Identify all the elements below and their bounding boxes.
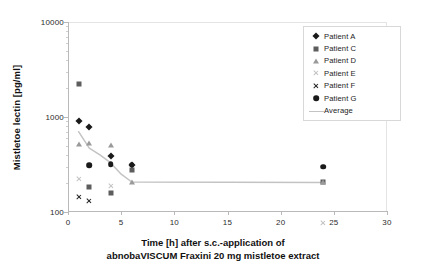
x-tick-label-15: 15 — [223, 218, 232, 227]
y-axis-title-text: Mistletoe lectin [pg/ml] — [12, 64, 23, 169]
legend-item-patient-g[interactable]: Patient G — [308, 92, 396, 104]
y-axis-tick-labels: 100100010000 — [26, 22, 64, 212]
legend-item-patient-e[interactable]: Patient E — [308, 67, 396, 79]
legend-marker-icon — [308, 43, 324, 55]
x-tick-label-0: 0 — [66, 218, 71, 227]
legend-marker-icon — [308, 80, 324, 92]
legend-item-label: Patient F — [324, 81, 355, 90]
legend-item-patient-c[interactable]: Patient C — [308, 42, 396, 54]
x-tick-label-30: 30 — [382, 218, 391, 227]
legend-line-icon — [309, 111, 324, 112]
legend-marker-icon — [308, 55, 324, 67]
y-tick-label-1000: 1000 — [26, 113, 64, 122]
x-tick-label-5: 5 — [119, 218, 124, 227]
legend-marker-icon — [308, 92, 324, 104]
legend-marker-icon — [308, 105, 324, 117]
legend-item-patient-f[interactable]: Patient F — [308, 80, 396, 92]
legend-item-patient-a[interactable]: Patient A — [308, 30, 396, 42]
legend-marker-icon — [308, 67, 324, 79]
x-tick-label-10: 10 — [170, 218, 179, 227]
x-tick-label-25: 25 — [329, 218, 338, 227]
legend-item-label: Patient E — [324, 69, 356, 78]
y-tick-label-100: 100 — [26, 208, 64, 217]
legend-item-label: Average — [324, 106, 353, 115]
legend-item-label: Patient D — [324, 56, 356, 65]
legend-item-label: Patient A — [324, 32, 355, 41]
chart-figure: Mistletoe lectin [pg/ml] 100100010000 05… — [0, 0, 426, 270]
legend-item-patient-d[interactable]: Patient D — [308, 55, 396, 67]
legend-item-average[interactable]: Average — [308, 104, 396, 116]
x-axis-title: Time [h] after s.c.-application of abnob… — [0, 237, 426, 262]
x-axis-title-line1: Time [h] after s.c.-application of — [0, 237, 426, 250]
x-tick-30 — [387, 211, 388, 215]
chart-legend: Patient APatient CPatient DPatient EPati… — [303, 26, 401, 121]
x-tick-label-20: 20 — [276, 218, 285, 227]
legend-marker-icon — [308, 30, 324, 42]
x-axis-title-line2: abnobaVISCUM Fraxini 20 mg mistletoe ext… — [0, 250, 426, 263]
y-axis-title: Mistletoe lectin [pg/ml] — [10, 22, 24, 212]
legend-item-label: Patient G — [324, 94, 357, 103]
y-tick-label-10000: 10000 — [26, 18, 64, 27]
data-point — [320, 220, 326, 226]
legend-item-label: Patient C — [324, 44, 356, 53]
